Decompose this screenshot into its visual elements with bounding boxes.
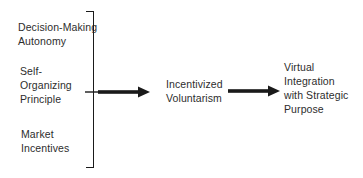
mediator-label-incentivized-voluntarism: Incentivized Voluntarism bbox=[166, 77, 223, 105]
flow-diagram: Decision-Making Autonomy Self- Organizin… bbox=[0, 0, 363, 178]
right-arrow-icon bbox=[85, 85, 151, 99]
input-item-self-organizing-principle: Self- Organizing Principle bbox=[20, 64, 72, 106]
outcome-label-virtual-integration: Virtual Integration with Strategic Purpo… bbox=[284, 60, 348, 116]
right-arrow-icon bbox=[228, 84, 280, 98]
input-item-market-incentives: Market Incentives bbox=[21, 127, 69, 155]
